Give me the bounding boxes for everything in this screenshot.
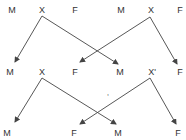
label-row1-0: M bbox=[6, 68, 14, 77]
label-row2-1: F bbox=[71, 129, 77, 138]
label-row0-4: X bbox=[148, 6, 154, 15]
arrow-4 bbox=[15, 78, 42, 122]
label-row0-0: M bbox=[8, 6, 16, 15]
label-row0-3: M bbox=[117, 6, 125, 15]
label-row1-1: X bbox=[39, 68, 45, 77]
arrow-7 bbox=[150, 78, 176, 124]
label-row0-2: F bbox=[72, 6, 78, 15]
label-row2-3: F bbox=[175, 129, 181, 138]
label-row0-1: X bbox=[39, 6, 45, 15]
arrow-0 bbox=[15, 16, 42, 62]
stray-mark: , bbox=[107, 89, 109, 96]
label-row1-3: M bbox=[116, 68, 124, 77]
arrow-5 bbox=[42, 78, 116, 124]
label-row1-4: X' bbox=[148, 68, 156, 77]
arrow-3 bbox=[150, 17, 177, 64]
arrow-1 bbox=[42, 16, 118, 64]
arrow-6 bbox=[80, 78, 150, 124]
label-row0-5: F bbox=[177, 6, 183, 15]
label-row1-2: F bbox=[72, 68, 78, 77]
arrow-2 bbox=[80, 17, 150, 62]
arrow-layer bbox=[0, 0, 186, 140]
crossing-diagram: MXFMXFMXFMX'FMFMF, bbox=[0, 0, 186, 140]
label-row2-2: M bbox=[114, 129, 122, 138]
label-row1-5: F bbox=[177, 68, 183, 77]
label-row2-0: M bbox=[3, 129, 11, 138]
